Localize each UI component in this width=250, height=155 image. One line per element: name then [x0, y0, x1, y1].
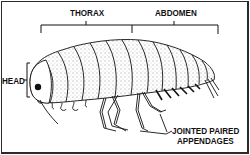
thorax-label: THORAX — [70, 8, 104, 18]
abdomen-label: ABDOMEN — [155, 8, 197, 18]
appendages-leader — [140, 114, 172, 134]
thorax-bracket — [41, 21, 132, 33]
abdomen-bracket — [132, 21, 218, 34]
appendages-label-line1: JOINTED PAIRED — [172, 126, 239, 136]
antenna — [38, 100, 58, 124]
eye-icon — [35, 84, 41, 90]
appendages-label-line2: APPENDAGES — [177, 136, 234, 146]
head-label: HEAD — [2, 76, 25, 86]
